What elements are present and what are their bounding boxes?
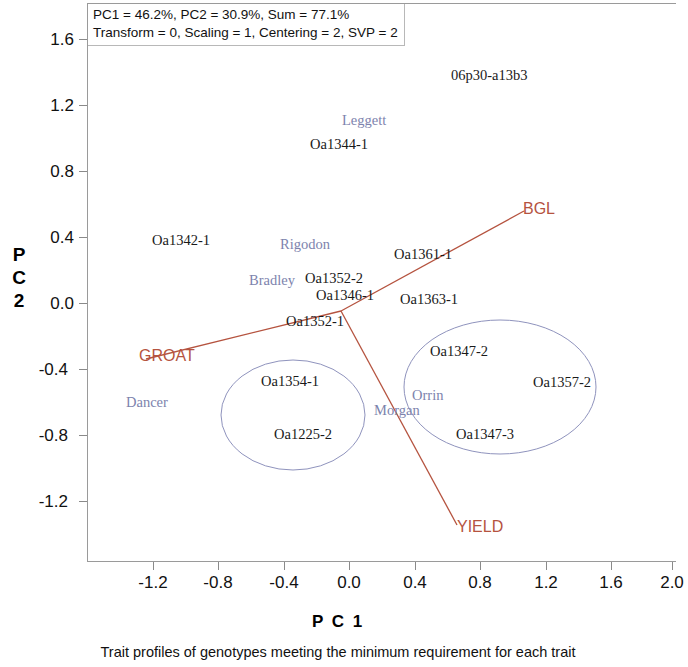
xtick-mark-0.4 [415,562,416,570]
xtick-mark-1.6 [611,562,612,570]
xtick-label--1.2: -1.2 [126,573,180,593]
info-box: PC1 = 46.2%, PC2 = 30.9%, Sum = 77.1% Tr… [88,4,405,46]
ytick-label-0.0: 0.0 [30,294,74,314]
ytick-label-1.6: 1.6 [30,30,74,50]
ytick-mark-0.4 [79,237,87,238]
ytick-mark-0.0 [79,303,87,304]
ytick-label-1.2: 1.2 [30,96,74,116]
xtick-label--0.4: -0.4 [257,573,311,593]
vector-label-bgl: BGL [523,200,555,218]
entry-label-oa1225-2: Oa1225-2 [274,426,332,443]
xtick-mark-0.0 [349,562,350,570]
xtick-label-2.0: 2.0 [645,573,688,593]
entry-label-oa1352-1: Oa1352-1 [286,313,344,330]
xtick-label-0.8: 0.8 [453,573,507,593]
figure-caption: Trait profiles of genotypes meeting the … [0,644,676,660]
xtick-mark-1.2 [546,562,547,570]
entry-label-oa1354-1: Oa1354-1 [261,373,319,390]
entry-label-oa1352-2: Oa1352-2 [305,270,363,287]
ytick-label--1.2: -1.2 [24,492,68,512]
y-axis-title: P C 2 [4,243,34,313]
entry-label-06p30-a13b3: 06p30-a13b3 [451,67,528,84]
variance-line: PC1 = 46.2%, PC2 = 30.9%, Sum = 77.1% [93,6,398,24]
vector-label-yield: YIELD [457,518,503,536]
genotype-label-dancer: Dancer [126,394,168,411]
y-axis-title-line-2: C [4,266,34,289]
genotype-label-rigodon: Rigodon [280,236,330,253]
xtick-mark--1.2 [153,562,154,570]
xtick-mark--0.8 [218,562,219,570]
xtick-label-0.4: 0.4 [388,573,442,593]
entry-label-oa1361-1: Oa1361-1 [394,246,452,263]
xtick-label-1.6: 1.6 [584,573,638,593]
entry-label-oa1346-1: Oa1346-1 [316,287,374,304]
settings-line: Transform = 0, Scaling = 1, Centering = … [93,24,398,42]
y-axis-title-line-3: 2 [4,289,34,312]
xtick-mark-2.0 [672,562,673,570]
plot-area [87,3,676,562]
entry-label-oa1347-2: Oa1347-2 [430,343,488,360]
xtick-label--0.8: -0.8 [191,573,245,593]
genotype-label-bradley: Bradley [249,272,295,289]
xtick-label-1.2: 1.2 [519,573,573,593]
xtick-label-0.0: 0.0 [322,573,376,593]
ytick-mark--0.8 [79,435,87,436]
entry-label-oa1363-1: Oa1363-1 [400,291,458,308]
genotype-label-leggett: Leggett [342,112,386,129]
y-axis-title-line-1: P [4,243,34,266]
ytick-mark-0.8 [79,171,87,172]
entry-label-oa1357-2: Oa1357-2 [533,374,591,391]
ytick-mark--1.2 [79,501,87,502]
ytick-mark-1.6 [79,39,87,40]
xtick-mark--0.4 [284,562,285,570]
genotype-label-morgan: Morgan [374,402,420,419]
ytick-label--0.4: -0.4 [24,360,68,380]
entry-label-oa1347-3: Oa1347-3 [456,426,514,443]
ytick-label-0.4: 0.4 [30,228,74,248]
xtick-mark-0.8 [480,562,481,570]
ytick-label--0.8: -0.8 [24,426,68,446]
x-axis-title: P C 1 [0,612,676,632]
entry-label-oa1342-1: Oa1342-1 [152,232,210,249]
vector-label-groat: GROAT [139,347,195,365]
ytick-mark--0.4 [79,369,87,370]
ytick-label-0.8: 0.8 [30,162,74,182]
entry-label-oa1344-1: Oa1344-1 [310,136,368,153]
ytick-mark-1.2 [79,105,87,106]
